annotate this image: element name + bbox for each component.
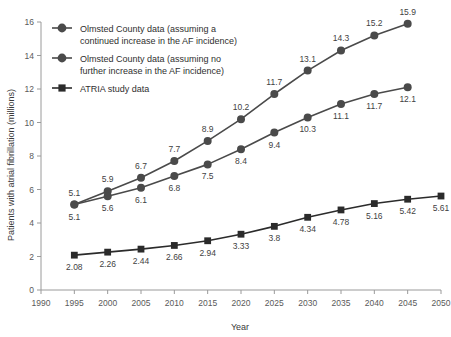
data-point-marker	[137, 184, 145, 192]
data-point-marker	[271, 223, 278, 230]
data-point-marker	[370, 90, 378, 98]
data-point-label: 6.8	[168, 183, 180, 193]
y-axis-title: Patients with atrial fibrillation (milli…	[6, 89, 16, 241]
chart-background	[0, 0, 451, 337]
x-tick-label: 1995	[65, 298, 84, 308]
data-point-label: 2.66	[166, 252, 183, 262]
data-point-marker	[270, 129, 278, 137]
legend-marker	[58, 54, 67, 63]
data-point-label: 3.33	[233, 241, 250, 251]
data-point-label: 3.8	[268, 233, 280, 243]
x-tick-label: 2025	[265, 298, 284, 308]
data-point-marker	[304, 214, 311, 221]
data-point-marker	[370, 31, 378, 39]
y-tick-label: 0	[29, 285, 34, 295]
legend-label-line2: further increase in the AF incidence)	[80, 66, 224, 76]
data-point-label: 5.16	[366, 211, 383, 221]
data-point-label: 5.6	[102, 203, 114, 213]
data-point-label: 6.7	[135, 161, 147, 171]
data-point-marker	[204, 160, 212, 168]
x-tick-label: 1990	[32, 298, 51, 308]
data-point-label: 10.3	[299, 124, 316, 134]
data-point-marker	[337, 100, 345, 108]
x-tick-label: 2030	[298, 298, 317, 308]
data-point-label: 5.61	[433, 203, 450, 213]
y-tick-label: 4	[29, 218, 34, 228]
data-point-marker	[170, 172, 178, 180]
x-tick-label: 2015	[198, 298, 217, 308]
y-tick-label: 10	[25, 118, 35, 128]
data-point-marker	[404, 83, 412, 91]
data-point-label: 10.2	[233, 102, 250, 112]
data-point-label: 5.9	[102, 174, 114, 184]
data-point-marker	[304, 67, 312, 75]
data-point-label: 2.44	[133, 256, 150, 266]
y-tick-label: 6	[29, 185, 34, 195]
x-tick-label: 2000	[98, 298, 117, 308]
y-tick-label: 8	[29, 151, 34, 161]
x-tick-label: 2045	[398, 298, 417, 308]
data-point-label: 4.78	[333, 217, 350, 227]
data-point-label: 13.1	[299, 54, 316, 64]
data-point-label: 2.08	[66, 262, 83, 272]
data-point-label: 9.4	[268, 140, 280, 150]
x-tick-label: 2005	[132, 298, 151, 308]
data-point-label: 2.94	[199, 248, 216, 258]
data-point-marker	[238, 231, 245, 238]
data-point-marker	[70, 201, 78, 209]
data-point-marker	[104, 249, 111, 256]
data-point-marker	[438, 193, 445, 200]
x-tick-label: 2010	[165, 298, 184, 308]
data-point-marker	[104, 192, 112, 200]
legend-label-line2: continued increase in the AF incidence)	[80, 36, 237, 46]
data-point-label: 4.34	[299, 224, 316, 234]
x-tick-label: 2035	[332, 298, 351, 308]
data-point-label: 7.5	[202, 171, 214, 181]
data-point-label: 12.1	[399, 94, 416, 104]
data-point-label: 11.7	[266, 77, 282, 87]
data-point-marker	[237, 145, 245, 153]
legend-label: ATRIA study data	[80, 84, 149, 94]
data-point-label: 8.4	[235, 156, 247, 166]
af-prevalence-line-chart: 0246810121416 19901995200020052010201520…	[0, 0, 451, 337]
x-tick-label: 2050	[432, 298, 451, 308]
data-point-label: 14.3	[333, 33, 350, 43]
data-point-marker	[338, 207, 345, 214]
data-point-marker	[337, 46, 345, 54]
data-point-label: 2.26	[99, 259, 116, 269]
y-tick-label: 16	[25, 17, 35, 27]
data-point-marker	[204, 237, 211, 244]
data-point-label: 7.7	[168, 144, 180, 154]
data-point-label: 8.9	[202, 124, 214, 134]
data-point-marker	[237, 115, 245, 123]
x-axis-title: Year	[231, 322, 249, 332]
y-tick-label: 2	[29, 252, 34, 262]
data-point-marker	[171, 242, 178, 249]
legend-label: Olmsted County data (assuming no	[80, 54, 221, 64]
y-tick-label: 14	[25, 51, 35, 61]
chart-container: 0246810121416 19901995200020052010201520…	[0, 0, 451, 337]
data-point-label: 15.9	[399, 7, 416, 17]
data-point-marker	[137, 174, 145, 182]
data-point-label: 6.1	[135, 195, 147, 205]
data-point-marker	[71, 252, 78, 259]
data-point-marker	[404, 196, 411, 203]
data-point-label: 5.1	[68, 188, 80, 198]
legend-marker	[58, 84, 65, 91]
data-point-label: 11.7	[366, 101, 382, 111]
data-point-label: 11.1	[333, 111, 349, 121]
legend-marker	[58, 24, 67, 33]
x-tick-label: 2040	[365, 298, 384, 308]
data-point-marker	[204, 137, 212, 145]
x-tick-label: 2020	[232, 298, 251, 308]
legend-label: Olmsted County data (assuming a	[80, 24, 216, 34]
data-point-marker	[371, 200, 378, 207]
data-point-label: 5.1	[68, 212, 80, 222]
y-tick-label: 12	[25, 84, 35, 94]
data-point-marker	[404, 20, 412, 28]
data-point-marker	[138, 246, 145, 253]
data-point-marker	[270, 90, 278, 98]
data-point-marker	[304, 113, 312, 121]
data-point-marker	[170, 157, 178, 165]
data-point-label: 5.42	[399, 206, 416, 216]
